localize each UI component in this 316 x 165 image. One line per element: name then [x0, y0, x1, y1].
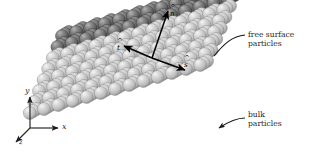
bulk-particle	[151, 71, 164, 84]
bulk-particle	[165, 67, 178, 80]
bulk-particle	[137, 75, 150, 88]
bulk-particle	[194, 59, 207, 72]
bulk-particle	[109, 83, 122, 96]
bulk-particles-label: bulk particles	[248, 111, 282, 128]
tangent2-vector-label: ^ s	[184, 57, 190, 69]
bulk-particle	[52, 99, 65, 112]
z-axis-label: z	[19, 138, 22, 146]
bulk-particle	[66, 95, 79, 108]
bulk-particle	[80, 91, 93, 104]
particle-slab-figure: ^ n ^ t ^ s y x z free surface particles…	[0, 0, 316, 165]
tangent1-letter: t	[117, 43, 120, 52]
figure-canvas	[0, 0, 316, 165]
normal-vector-label: ^ n	[170, 6, 176, 18]
bulk-particle	[38, 103, 51, 116]
bulk-particle	[123, 79, 136, 92]
free-surface-particles-label: free surface particles	[248, 31, 294, 48]
normal-letter: n	[170, 9, 175, 18]
y-axis-label: y	[25, 86, 29, 95]
leader-lines	[214, 35, 245, 128]
x-axis-label: x	[62, 122, 66, 131]
tangent2-letter: s	[184, 60, 188, 69]
tangent1-vector-label: ^ t	[117, 40, 123, 52]
bulk-particle	[94, 87, 107, 100]
bulk-leader	[219, 118, 245, 128]
particle-lattice	[23, 0, 241, 120]
